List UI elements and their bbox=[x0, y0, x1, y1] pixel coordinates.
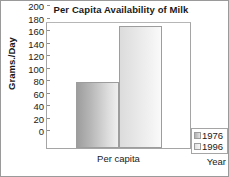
y-axis-tick-label: 20 bbox=[33, 114, 47, 125]
legend-label: 1976 bbox=[202, 131, 223, 141]
y-axis-tick-mark bbox=[47, 18, 50, 19]
y-axis-tick-label: 140 bbox=[28, 39, 47, 50]
legend-swatch-icon bbox=[194, 143, 201, 150]
y-axis-tick-label: 0 bbox=[39, 126, 47, 137]
y-axis-tick: 200 bbox=[28, 0, 47, 14]
y-axis-tick-label: 40 bbox=[33, 101, 47, 112]
legend-title: Year bbox=[191, 156, 228, 167]
y-axis-title: Grams./Day bbox=[6, 29, 17, 99]
chart-figure: Per Capita Availability of Milk Grams./D… bbox=[0, 0, 229, 177]
bars-layer bbox=[47, 23, 190, 148]
x-axis-category-label: Per capita bbox=[46, 153, 191, 164]
y-axis-tick-label: 100 bbox=[28, 64, 47, 75]
y-axis-tick-label: 80 bbox=[33, 76, 47, 87]
y-axis-tick-label: 180 bbox=[28, 14, 47, 25]
bar-1996 bbox=[119, 26, 162, 149]
y-axis-tick-label: 200 bbox=[28, 1, 47, 12]
legend: 1976 1996 bbox=[191, 128, 228, 154]
legend-label: 1996 bbox=[202, 142, 223, 152]
plot-area: 020406080100120140160180200 bbox=[46, 22, 191, 149]
y-axis-tick-label: 60 bbox=[33, 89, 47, 100]
y-axis-tick-label: 160 bbox=[28, 26, 47, 37]
y-axis-tick-label: 120 bbox=[28, 51, 47, 62]
legend-item[interactable]: 1976 bbox=[194, 130, 226, 141]
legend-item[interactable]: 1996 bbox=[194, 141, 226, 152]
y-axis-tick-mark bbox=[47, 5, 50, 6]
chart-title: Per Capita Availability of Milk bbox=[41, 4, 201, 15]
bar-1976 bbox=[76, 82, 119, 148]
legend-swatch-icon bbox=[194, 132, 201, 139]
